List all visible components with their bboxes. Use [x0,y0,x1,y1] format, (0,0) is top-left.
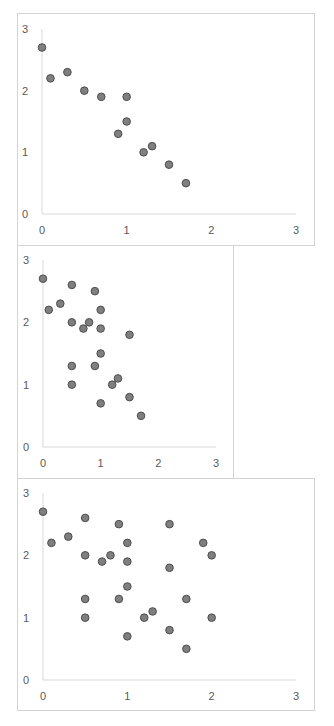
data-point [97,325,105,333]
y-tick-label: 0 [23,441,29,453]
x-tick-label: 1 [98,457,104,469]
plot-area: 01230123 [18,246,235,480]
data-point [115,595,123,603]
data-point [148,142,156,150]
x-tick-label: 1 [124,224,130,236]
data-point [166,564,174,572]
data-point [97,93,105,101]
data-point [208,614,216,622]
data-point [39,275,47,283]
x-tick-label: 1 [124,690,130,702]
data-point [123,118,131,126]
x-tick-label: 3 [213,457,219,469]
data-point [97,306,105,314]
x-tick-label: 2 [208,224,214,236]
y-tick-label: 2 [23,549,29,561]
y-tick-label: 2 [23,316,29,328]
data-point [183,645,191,653]
data-point [81,514,89,522]
x-tick-label: 0 [40,690,46,702]
y-tick-label: 3 [22,23,28,35]
data-point [126,331,134,339]
data-point [137,412,145,420]
data-point [199,539,207,547]
data-point [124,558,132,566]
data-point [81,87,89,95]
data-point [47,75,55,83]
data-point [97,350,105,358]
data-point [166,626,174,634]
data-point [68,281,76,289]
data-point [124,539,132,547]
data-point [39,508,47,516]
data-point [149,608,157,616]
data-point [124,583,132,591]
y-tick-label: 1 [22,146,28,158]
data-point [68,319,76,327]
y-tick-label: 1 [23,612,29,624]
scatter-chart-1: 01230123 [17,13,315,246]
data-point [91,362,99,370]
x-tick-label: 2 [155,457,161,469]
data-point [80,325,88,333]
x-tick-label: 3 [293,224,299,236]
data-point [140,149,148,157]
data-point [38,44,46,52]
data-point [165,161,173,169]
data-point [208,552,216,560]
y-tick-label: 3 [23,487,29,499]
data-point [64,68,72,76]
data-point [126,393,134,401]
scatter-chart-3: 01230123 [17,478,315,711]
data-point [85,319,93,327]
data-point [140,614,148,622]
y-tick-label: 1 [23,379,29,391]
data-point [114,375,122,383]
data-point [81,595,89,603]
data-point [183,595,191,603]
data-point [108,381,116,389]
data-point [124,633,132,641]
data-point [98,558,106,566]
data-point [166,520,174,528]
data-point [45,306,53,314]
data-point [107,552,115,560]
data-point [48,539,56,547]
y-tick-label: 0 [23,674,29,686]
x-tick-label: 0 [39,224,45,236]
data-point [97,400,105,408]
y-tick-label: 2 [22,85,28,97]
x-tick-label: 2 [209,690,215,702]
data-point [68,381,76,389]
data-point [57,300,65,308]
scatter-chart-2: 01230123 [17,245,234,479]
data-point [123,93,131,101]
plot-area: 01230123 [18,14,316,247]
data-point [91,287,99,295]
plot-area: 01230123 [18,479,316,712]
data-point [81,614,89,622]
x-tick-label: 0 [40,457,46,469]
data-point [115,520,123,528]
data-point [114,130,122,138]
data-point [81,552,89,560]
data-point [65,533,73,541]
x-tick-label: 3 [293,690,299,702]
y-tick-label: 0 [22,208,28,220]
data-point [68,362,76,370]
data-point [182,179,190,187]
y-tick-label: 3 [23,254,29,266]
